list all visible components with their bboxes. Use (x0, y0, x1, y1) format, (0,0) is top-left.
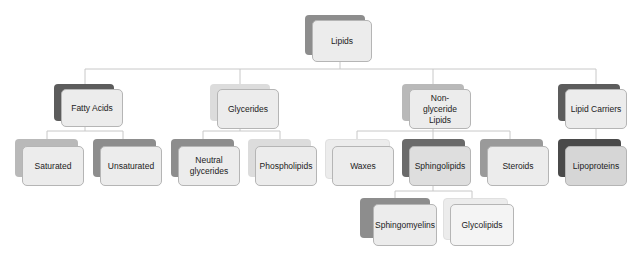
node-label: Sphingomyelins (373, 204, 437, 246)
node-label: Non-glyceride Lipids (409, 89, 471, 129)
node-label: Sphingolipids (409, 146, 471, 186)
node-label: Lipoproteins (565, 146, 627, 186)
node-label: Glycolipids (450, 204, 514, 246)
node-label: Fatty Acids (61, 89, 123, 127)
node-label: Lipids (312, 20, 372, 62)
node-label: Waxes (332, 146, 394, 186)
node-label: Neutral glycerides (178, 146, 240, 186)
node-label: Glycerides (217, 89, 279, 129)
node-label: Unsaturated (100, 146, 162, 186)
node-label: Phospholipids (255, 146, 317, 186)
node-label: Saturated (22, 146, 84, 186)
node-label: Steroids (487, 146, 549, 186)
node-label: Lipid Carriers (565, 89, 627, 129)
